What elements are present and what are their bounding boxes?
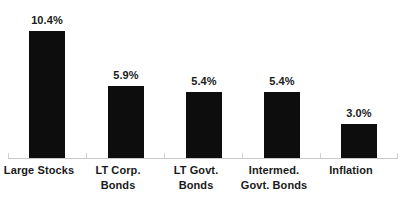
category-label-intermed-govt-bonds: Intermed. Govt. Bonds xyxy=(231,163,317,193)
category-label-lt-govt-bonds: LT Govt. Bonds xyxy=(153,163,239,193)
axis-tick xyxy=(86,153,87,158)
bar-rect[interactable] xyxy=(108,86,144,159)
axis-tick xyxy=(397,153,398,158)
bar-rect[interactable] xyxy=(341,124,377,159)
axis-tick xyxy=(242,153,243,158)
category-label-line1: Intermed. xyxy=(249,164,299,176)
bar-value-label: 5.9% xyxy=(92,69,160,81)
plot-area: 10.4% 5.9% 5.4% 5.4% 3.0% xyxy=(8,0,398,159)
bar-value-label: 3.0% xyxy=(325,107,393,119)
category-label-lt-corp-bonds: LT Corp. Bonds xyxy=(75,163,161,193)
category-label-line2: Govt. Bonds xyxy=(231,178,317,193)
bar-rect[interactable] xyxy=(264,92,300,159)
bar-rect[interactable] xyxy=(186,92,222,159)
axis-tick xyxy=(320,153,321,158)
category-label-line1: LT Corp. xyxy=(95,164,140,176)
category-label-line1: Inflation xyxy=(329,164,373,176)
category-label-line2: Bonds xyxy=(153,178,239,193)
category-label-large-stocks: Large Stocks xyxy=(0,163,82,178)
category-label-line1: LT Govt. xyxy=(174,164,219,176)
category-label-inflation: Inflation xyxy=(308,163,394,178)
bar-rect[interactable] xyxy=(29,31,65,159)
bar-value-label: 5.4% xyxy=(248,75,316,87)
axis-tick xyxy=(164,153,165,158)
axis-tick xyxy=(8,153,9,158)
bar-chart: 10.4% 5.9% 5.4% 5.4% 3.0% Large xyxy=(0,0,407,207)
bar-value-label: 10.4% xyxy=(13,14,81,26)
category-axis-line xyxy=(8,158,398,159)
category-label-line1: Large Stocks xyxy=(4,164,74,176)
bar-value-label: 5.4% xyxy=(170,75,238,87)
category-label-line2: Bonds xyxy=(75,178,161,193)
